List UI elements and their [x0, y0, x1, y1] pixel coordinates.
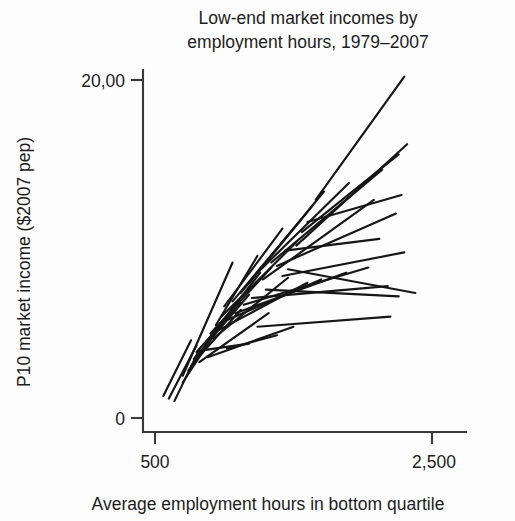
data-line-segment: [296, 144, 407, 245]
data-series-group: [163, 77, 415, 401]
data-line-segment: [257, 317, 390, 327]
x-tick-label-left: 500: [140, 452, 169, 472]
x-axis-title: Average employment hours in bottom quart…: [92, 494, 445, 514]
chart-title-line-1: Low-end market incomes by: [199, 8, 418, 28]
x-tick-label-right: 2,500: [412, 452, 456, 472]
chart-title-line-2: employment hours, 1979–2007: [187, 32, 428, 52]
chart-canvas: Low-end market incomes by employment hou…: [0, 0, 515, 521]
y-tick-label-top: 20,00: [81, 71, 125, 91]
chart-figure: Low-end market incomes by employment hou…: [0, 0, 515, 521]
y-axis-title: P10 market income ($2007 pep): [14, 137, 34, 387]
data-line-segment: [316, 77, 405, 200]
y-tick-label-bottom: 0: [115, 409, 125, 429]
